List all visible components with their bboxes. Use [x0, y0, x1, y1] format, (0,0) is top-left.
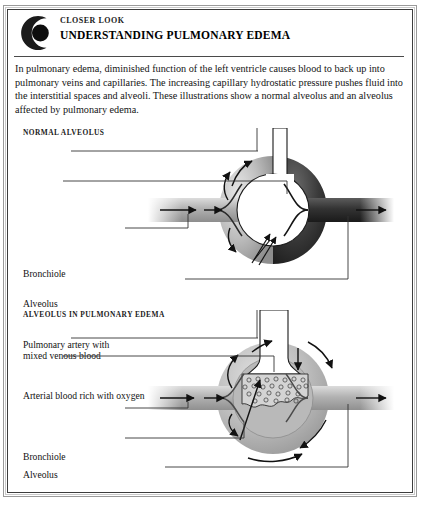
panel-edema-alveolus: ALVEOLUS IN PULMONARY EDEMA [8, 310, 412, 492]
alveolus-sac [237, 174, 309, 246]
label-bronchiole-normal: Bronchiole [23, 268, 66, 279]
content-area: CLOSER LOOK UNDERSTANDING PULMONARY EDEM… [8, 10, 412, 492]
label-alveolus-edema: Alveolus [23, 469, 58, 480]
label-bronchiole-edema: Bronchiole [23, 451, 66, 462]
page-title: UNDERSTANDING PULMONARY EDEMA [60, 28, 400, 42]
title-divider [14, 56, 404, 57]
header-text-block: CLOSER LOOK UNDERSTANDING PULMONARY EDEM… [60, 16, 400, 42]
kicker-label: CLOSER LOOK [60, 16, 400, 26]
label-alveolus-normal: Alveolus [23, 298, 58, 309]
crescent-eye-logo-icon [16, 14, 54, 52]
page-root: CLOSER LOOK UNDERSTANDING PULMONARY EDEM… [0, 0, 421, 505]
intro-paragraph: In pulmonary edema, diminished function … [15, 62, 405, 116]
edema-alveolus-illustration [8, 310, 412, 492]
panel-normal-alveolus: NORMAL ALVEOLUS [8, 128, 412, 308]
header: CLOSER LOOK UNDERSTANDING PULMONARY EDEM… [8, 10, 412, 57]
normal-alveolus-illustration [8, 128, 412, 310]
